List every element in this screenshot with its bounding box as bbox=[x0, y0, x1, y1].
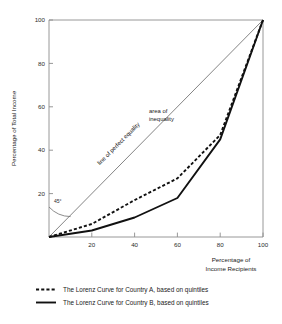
y-tick-label-20: 20 bbox=[38, 190, 45, 197]
x-axis-title-line1: Percentage of bbox=[212, 256, 251, 263]
x-axis-title-line2: Income Recipients bbox=[206, 265, 257, 272]
x-tick-label-80: 80 bbox=[217, 241, 224, 248]
annotation-area-of-inequality-line2: inequality bbox=[149, 116, 174, 122]
y-tick-label-80: 80 bbox=[38, 60, 45, 67]
figure-background bbox=[0, 0, 282, 324]
x-tick-label-20: 20 bbox=[88, 241, 95, 248]
y-tick-label-100: 100 bbox=[35, 16, 46, 23]
legend-label-country-b: The Lorenz Curve for Country B, based on… bbox=[63, 299, 209, 307]
legend-label-country-a: The Lorenz Curve for Country A, based on… bbox=[63, 286, 208, 294]
x-tick-label-40: 40 bbox=[131, 241, 138, 248]
y-tick-label-60: 60 bbox=[38, 103, 45, 110]
x-tick-label-60: 60 bbox=[174, 241, 181, 248]
angle-label-45: 45° bbox=[54, 198, 62, 204]
x-tick-label-100: 100 bbox=[258, 241, 269, 248]
annotation-area-of-inequality-line1: area of bbox=[149, 108, 168, 114]
lorenz-curve-figure: 100 80 60 40 20 20 40 60 80 100 Percenta… bbox=[0, 0, 282, 324]
y-axis-title: Percentage of Total Income bbox=[10, 90, 17, 166]
y-tick-label-40: 40 bbox=[38, 146, 45, 153]
chart-svg: 100 80 60 40 20 20 40 60 80 100 Percenta… bbox=[0, 0, 282, 324]
